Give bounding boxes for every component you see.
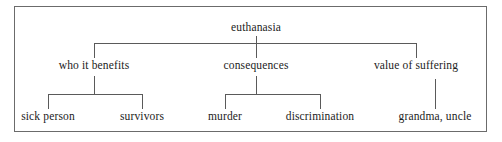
node-grandma-uncle: grandma, uncle (399, 110, 472, 123)
connector-drop-discrimination (320, 94, 321, 109)
node-survivors: survivors (120, 110, 164, 123)
node-root-euthanasia: euthanasia (231, 21, 281, 34)
node-sick-person: sick person (21, 110, 75, 123)
connector-bus-who-it-benefits (48, 94, 142, 95)
connector-drop-sick-person (48, 94, 49, 109)
connector-stem-grandma-uncle (435, 79, 436, 109)
connector-bus-consequences (225, 94, 320, 95)
diagram-canvas: euthanasia who it benefits consequences … (0, 0, 502, 142)
connector-stem-who-it-benefits (94, 76, 95, 94)
connector-drop-who-it-benefits (94, 43, 95, 58)
node-value-of-suffering: value of suffering (374, 59, 458, 72)
connector-level1-bus (94, 43, 416, 44)
connector-drop-survivors (142, 94, 143, 109)
connector-drop-value-of-suffering (416, 43, 417, 58)
diagram-border: euthanasia who it benefits consequences … (14, 6, 487, 132)
node-consequences: consequences (223, 59, 288, 72)
node-discrimination: discrimination (286, 110, 355, 123)
connector-drop-consequences (256, 43, 257, 58)
connector-drop-murder (225, 94, 226, 109)
node-who-it-benefits: who it benefits (59, 59, 130, 72)
node-murder: murder (208, 110, 242, 123)
connector-stem-consequences (256, 76, 257, 94)
